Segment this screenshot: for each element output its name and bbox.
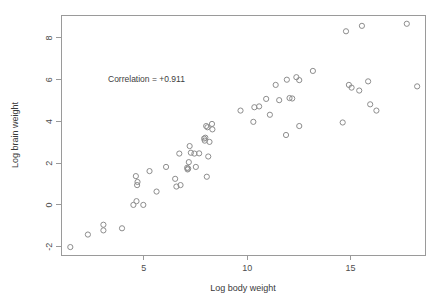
- y-tick-label: 2: [44, 161, 54, 166]
- y-tick-label: 4: [44, 119, 54, 124]
- x-tick-label: 15: [346, 263, 356, 273]
- correlation-annotation: Correlation = +0.911: [108, 74, 185, 84]
- x-axis-title: Log body weight: [210, 283, 276, 293]
- figure-background: [0, 0, 444, 306]
- y-tick-label: 6: [44, 77, 54, 82]
- x-tick-label: 10: [242, 263, 252, 273]
- scatter-plot-figure: 51015 -202468 Correlation = +0.911 Log b…: [0, 0, 444, 306]
- x-tick-label: 5: [141, 263, 146, 273]
- chart-canvas: 51015 -202468 Correlation = +0.911 Log b…: [0, 0, 444, 306]
- y-tick-label: 0: [44, 202, 54, 207]
- y-tick-label: 8: [44, 35, 54, 40]
- y-axis-title: Log brain weight: [10, 101, 20, 168]
- y-tick-label: -2: [44, 243, 54, 251]
